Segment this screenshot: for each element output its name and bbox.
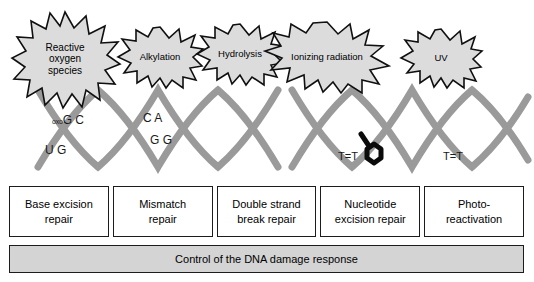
- starburst-shape: [12, 12, 120, 108]
- lesion-label-thymine-dimer-1: T=T: [338, 150, 358, 162]
- repair-box-photo-reactivation[interactable]: Photo- reactivation: [424, 186, 524, 237]
- starburst-shape: [401, 29, 482, 88]
- repair-box-double-strand-break-repair[interactable]: Double strand break repair: [217, 186, 317, 237]
- repair-box-mismatch-repair[interactable]: Mismatch repair: [113, 186, 213, 237]
- lesion-label-oxog-c: oxoG C: [52, 113, 84, 127]
- control-of-dna-damage-response-bar[interactable]: Control of the DNA damage response: [9, 245, 524, 273]
- starburst-shape: [265, 22, 389, 93]
- dna-strand-b-right: [292, 90, 528, 167]
- oxo-subscript: oxo: [52, 118, 63, 125]
- damage-burst-ionizing-radiation: Ionizing radiation: [265, 21, 389, 93]
- lesion-label-g-g: G G: [150, 133, 172, 147]
- dna-strand-a-right: [292, 90, 528, 167]
- dna-damage-repair-figure: oxoG C U G C A G G T=T T=T Reactive oxyg…: [0, 0, 534, 282]
- damage-burst-reactive-oxygen-species: Reactive oxygen species: [12, 10, 118, 108]
- damage-burst-alkylation: Alkylation: [117, 26, 203, 88]
- repair-pathway-row: Base excision repair Mismatch repair Dou…: [9, 186, 524, 237]
- lesion-label-u-g: U G: [45, 143, 66, 157]
- repair-box-base-excision-repair[interactable]: Base excision repair: [9, 186, 109, 237]
- repair-box-nucleotide-excision-repair[interactable]: Nucleotide excision repair: [320, 186, 420, 237]
- lesion-label-c-a: C A: [143, 111, 162, 125]
- lesion-label-thymine-dimer-2: T=T: [443, 150, 463, 162]
- starburst-shape: [118, 27, 203, 88]
- damage-burst-uv: UV: [400, 28, 482, 88]
- oxog-c-text: G C: [63, 113, 84, 127]
